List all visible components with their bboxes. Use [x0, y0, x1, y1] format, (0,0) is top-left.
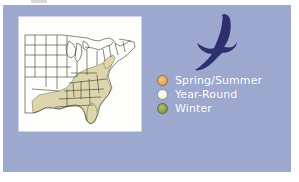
legend-swatch-spring-summer [157, 75, 168, 86]
range-map-figure: Spring/Summer Year-Round Winter [0, 0, 299, 182]
us-range-map-svg [19, 17, 141, 131]
scan-smudge-artifact [31, 0, 47, 3]
legend-label-spring-summer: Spring/Summer [175, 75, 262, 86]
eagle-silhouette [186, 13, 248, 73]
figure-panel: Spring/Summer Year-Round Winter [3, 5, 291, 172]
eagle-silhouette-svg [186, 13, 248, 73]
legend-label-year-round: Year-Round [175, 89, 237, 100]
legend-item-winter[interactable]: Winter [157, 101, 291, 115]
us-range-map-card [19, 17, 141, 131]
legend-label-winter: Winter [175, 103, 212, 114]
legend-swatch-year-round [157, 89, 168, 100]
legend: Spring/Summer Year-Round Winter [157, 73, 291, 115]
legend-item-spring-summer[interactable]: Spring/Summer [157, 73, 291, 87]
legend-item-year-round[interactable]: Year-Round [157, 87, 291, 101]
legend-swatch-winter [157, 103, 168, 114]
eagle-body-path [195, 15, 237, 70]
